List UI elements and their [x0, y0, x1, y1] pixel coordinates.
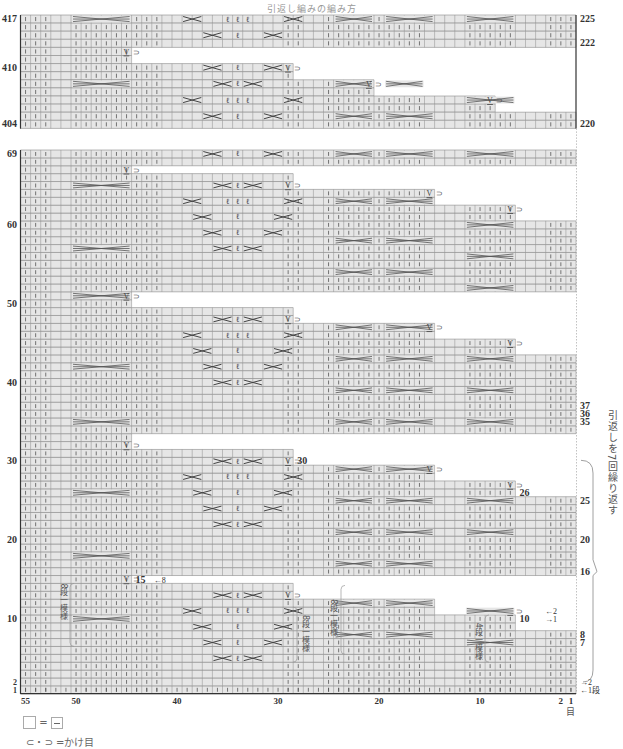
- svg-text:V: V: [507, 205, 513, 214]
- svg-text:ℓ: ℓ: [236, 362, 240, 371]
- svg-text:V: V: [427, 189, 433, 198]
- svg-text:⊃: ⊃: [294, 315, 301, 324]
- row-label-10: 10: [7, 613, 17, 624]
- svg-text:V: V: [124, 441, 130, 450]
- pattern-note-4rows: 4段一模様: [474, 623, 483, 660]
- axis-tick-20: 20: [375, 696, 385, 706]
- svg-text:⊃: ⊃: [375, 80, 382, 89]
- svg-text:V: V: [285, 457, 291, 466]
- svg-text:ℓ: ℓ: [226, 15, 230, 24]
- svg-text:⊃: ⊃: [133, 166, 140, 175]
- row-label-right-10: 10: [519, 613, 529, 624]
- svg-text:ℓ: ℓ: [236, 591, 240, 600]
- svg-text:V: V: [124, 292, 130, 301]
- svg-text:ℓ: ℓ: [236, 244, 240, 253]
- row-label-50: 50: [7, 298, 17, 309]
- svg-text:ℓ: ℓ: [226, 197, 230, 206]
- svg-text:ℓ: ℓ: [236, 96, 240, 105]
- svg-text:ℓ: ℓ: [236, 606, 240, 615]
- axis-tick-1: 1: [569, 696, 574, 706]
- purl-cell-swatch: [51, 717, 63, 729]
- row-label-right-25: 25: [580, 495, 590, 506]
- svg-text:ℓ: ℓ: [236, 315, 240, 324]
- repeat-instruction: 引返しを7回繰り返す: [604, 410, 619, 516]
- svg-text:⊃: ⊃: [294, 64, 301, 73]
- knitting-chart: ℓℓℓℓV⊃ℓV⊃ℓV⊃ℓℓℓV⊃ℓℓV⊃ℓℓℓℓℓℓℓV⊃V⊃V⊃V⊃ℓℓℓℓ…: [0, 0, 623, 749]
- legend-yarn-over: ⊂・⊃ =かけ目: [26, 734, 94, 749]
- axis-tick-55: 55: [21, 696, 31, 706]
- svg-text:ℓ: ℓ: [236, 181, 240, 190]
- pattern-note-8rows-left: 8段一模様: [59, 583, 68, 620]
- yarn-over-label: ⊂・⊃ =かけ目: [26, 737, 94, 748]
- svg-text:⊃: ⊃: [516, 339, 523, 348]
- svg-text:ℓ: ℓ: [236, 63, 240, 72]
- row-arrow-1a: →1: [545, 615, 557, 624]
- svg-text:⊃: ⊃: [496, 96, 503, 105]
- svg-text:ℓ: ℓ: [236, 15, 240, 24]
- svg-text:V: V: [427, 323, 433, 332]
- svg-text:ℓ: ℓ: [236, 472, 240, 481]
- row-label-40: 40: [7, 377, 17, 388]
- svg-text:⊃: ⊃: [294, 591, 301, 600]
- svg-text:ℓ: ℓ: [226, 606, 230, 615]
- svg-text:ℓ: ℓ: [236, 79, 240, 88]
- row-label-1: 1: [13, 686, 17, 695]
- axis-tick-40: 40: [173, 696, 183, 706]
- axis-tick-2: 2: [559, 696, 564, 706]
- svg-text:⊃: ⊃: [516, 205, 523, 214]
- svg-text:ℓ: ℓ: [236, 457, 240, 466]
- svg-text:ℓ: ℓ: [236, 638, 240, 647]
- row-label-225: 225: [580, 13, 595, 24]
- svg-text:V: V: [507, 339, 513, 348]
- svg-text:ℓ: ℓ: [236, 378, 240, 387]
- row-label-30: 30: [7, 455, 17, 466]
- empty-cell-swatch: [23, 716, 36, 729]
- row-label-220: 220: [580, 118, 595, 129]
- svg-text:⊃: ⊃: [436, 189, 443, 198]
- svg-text:⊃: ⊃: [133, 48, 140, 57]
- svg-text:ℓ: ℓ: [226, 96, 230, 105]
- svg-text:ℓ: ℓ: [236, 228, 240, 237]
- svg-text:ℓ: ℓ: [236, 197, 240, 206]
- axis-tick-50: 50: [72, 696, 82, 706]
- row-label-right-20: 20: [580, 534, 590, 545]
- svg-text:V: V: [285, 315, 291, 324]
- svg-text:V: V: [427, 465, 433, 474]
- svg-text:ℓ: ℓ: [246, 331, 250, 340]
- svg-text:ℓ: ℓ: [236, 31, 240, 40]
- row-label-69: 69: [7, 148, 17, 159]
- svg-text:V: V: [366, 80, 372, 89]
- equals-sign: =: [39, 717, 47, 728]
- svg-text:V: V: [124, 48, 130, 57]
- row-label-right-15: 15: [136, 574, 146, 585]
- svg-text:ℓ: ℓ: [236, 346, 240, 355]
- svg-text:V: V: [124, 166, 130, 175]
- svg-text:ℓ: ℓ: [236, 488, 240, 497]
- svg-text:V: V: [507, 481, 513, 490]
- row-label-417: 417: [2, 13, 17, 24]
- svg-text:ℓ: ℓ: [236, 520, 240, 529]
- svg-text:⊃: ⊃: [294, 181, 301, 190]
- svg-text:ℓ: ℓ: [236, 331, 240, 340]
- row-label-right-35: 35: [580, 416, 590, 427]
- svg-text:ℓ: ℓ: [246, 15, 250, 24]
- legend-empty-cell: =: [23, 716, 63, 729]
- svg-text:ℓ: ℓ: [236, 212, 240, 221]
- svg-text:⊃: ⊃: [436, 465, 443, 474]
- row-arrow-8: ←8: [154, 576, 166, 585]
- row-label-410: 410: [2, 62, 17, 73]
- svg-text:V: V: [487, 96, 493, 105]
- row-label-222: 222: [580, 37, 595, 48]
- svg-text:V: V: [285, 64, 291, 73]
- svg-text:ℓ: ℓ: [246, 606, 250, 615]
- svg-text:ℓ: ℓ: [246, 197, 250, 206]
- row-label-20: 20: [7, 534, 17, 545]
- svg-text:V: V: [285, 181, 291, 190]
- svg-text:V: V: [124, 575, 130, 584]
- svg-text:ℓ: ℓ: [236, 504, 240, 513]
- pattern-note-8rows-center: 8段一模様: [329, 599, 338, 636]
- axis-tick-30: 30: [274, 696, 284, 706]
- axis-tick-10: 10: [476, 696, 486, 706]
- pattern-note-8rows-mid: 8段一模様: [301, 615, 310, 652]
- svg-text:ℓ: ℓ: [246, 472, 250, 481]
